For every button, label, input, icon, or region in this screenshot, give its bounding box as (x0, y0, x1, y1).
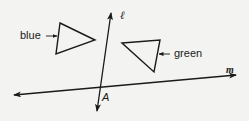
line-m-label: m (226, 65, 234, 75)
green-label: green (174, 48, 202, 59)
line-m (14, 75, 236, 95)
line-l-label: ℓ (120, 10, 125, 21)
blue-triangle (56, 23, 95, 54)
green-triangle (122, 40, 160, 72)
blue-label: blue (20, 30, 41, 41)
geometry-diagram: blue green A m ℓ (0, 0, 249, 121)
point-a-label: A (102, 92, 109, 103)
